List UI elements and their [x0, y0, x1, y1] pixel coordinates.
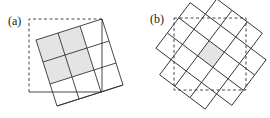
panel-a-figure: [29, 19, 123, 113]
shaded-cell: [198, 41, 225, 68]
diagram-canvas: [0, 0, 270, 118]
panel-b-figure: [144, 0, 270, 118]
